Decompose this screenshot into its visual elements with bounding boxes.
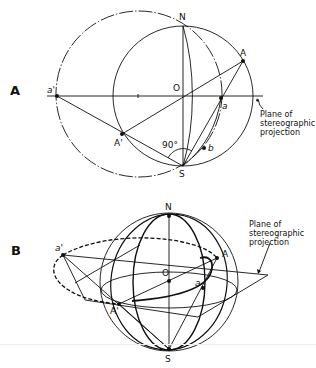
point-n-label-b: N	[165, 203, 172, 212]
panel-label-b: B	[11, 244, 21, 257]
point-b-label: b	[208, 144, 214, 153]
angle-90-label: 90°	[162, 141, 178, 150]
point-o-label: O	[173, 84, 180, 93]
panel-label-a: A	[10, 84, 20, 97]
point-a-label-b: a	[195, 279, 201, 288]
point-a-prime-label-b: a'	[55, 244, 63, 253]
point-n-label: N	[179, 13, 186, 22]
panel-b-diagram	[0, 0, 316, 368]
point-a-label: a	[222, 102, 228, 111]
bottom-divider	[0, 344, 316, 345]
point-A-prime-label: A'	[114, 139, 123, 148]
point-s-label: S	[179, 170, 185, 179]
plane-annotation-a: Plane of stereographic projection	[260, 110, 315, 137]
point-a-upper-label: A	[240, 49, 246, 58]
point-o-label-b: O	[162, 269, 169, 278]
plane-annotation-b: Plane of stereographic projection	[249, 220, 304, 247]
point-s-label-b: S	[165, 355, 171, 364]
stereographic-projection-figure: A N O S A a a' A' b 90° Plane of stereog…	[0, 0, 316, 368]
point-a-upper-label-b: A	[222, 250, 228, 259]
point-a-prime-label: a'	[47, 86, 55, 95]
point-A-prime-label-b: A'	[110, 307, 119, 316]
